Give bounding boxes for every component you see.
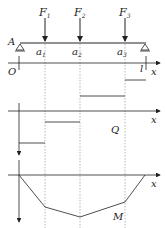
length-label: l — [140, 63, 143, 74]
beam-diagram: F1 F2 F3 a1 a2 a3 A O l x Q x M x — [0, 0, 165, 228]
shear-label: Q — [111, 124, 119, 135]
position-label-1: a1 — [36, 46, 46, 58]
support-label-a: A — [7, 36, 15, 47]
x-axis-label: x — [151, 66, 157, 77]
shear-diagram — [19, 80, 146, 143]
moment-label: M — [112, 211, 124, 222]
load-label-1: F1 — [38, 6, 50, 19]
moment-x-label: x — [151, 178, 157, 189]
position-label-3: a3 — [117, 46, 127, 58]
roller-support-icon — [140, 44, 150, 51]
pin-support-icon — [15, 44, 25, 51]
load-guidelines — [45, 44, 125, 228]
moment-diagram — [19, 175, 145, 217]
position-label-2: a2 — [72, 46, 82, 58]
load-label-2: F2 — [73, 6, 86, 19]
load-arrows — [45, 18, 125, 41]
origin-label: O — [8, 66, 16, 77]
shear-x-label: x — [151, 114, 157, 125]
load-label-3: F3 — [118, 6, 131, 19]
